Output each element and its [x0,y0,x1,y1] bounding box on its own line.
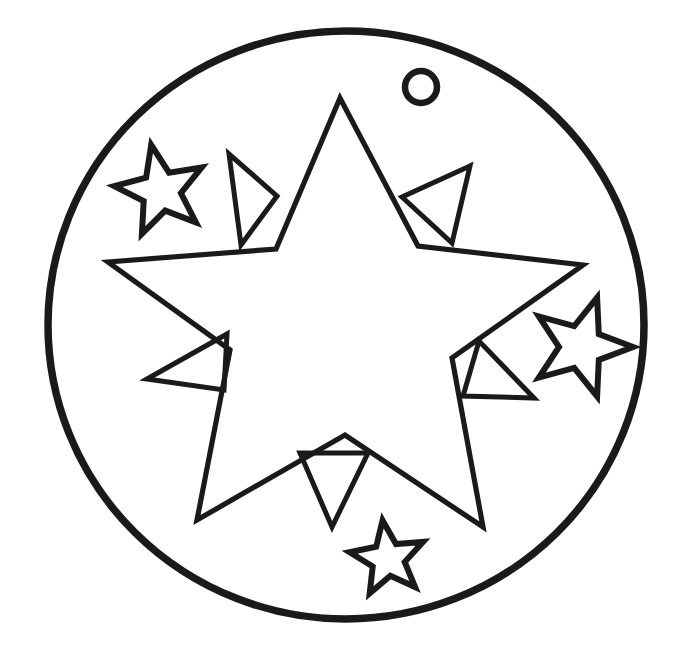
star-medallion-artwork [0,0,681,649]
coloring-page-canvas [0,0,681,649]
